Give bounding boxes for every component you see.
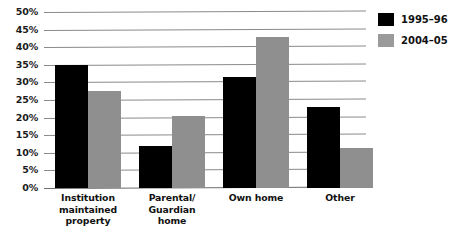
gridline [44,28,366,31]
bar [172,116,205,188]
gridline [44,46,366,49]
y-axis-tick-label: 25% [0,94,38,105]
y-axis-tick-label: 10% [0,147,38,158]
x-axis-category-line: Other [290,192,390,204]
y-axis-tick-label: 50% [0,6,38,17]
gridline [44,63,366,66]
legend-item: 1995–96 [378,12,458,26]
bar [256,37,289,188]
bar [340,148,373,188]
bar-chart: 50%45%40%35%30%25%20%15%10%5%0% Institut… [0,0,459,236]
y-axis-tick-label: 15% [0,129,38,140]
plot-area [44,12,366,188]
x-axis-category-line: Guardian [122,204,222,216]
gridline [44,10,366,13]
y-axis-tick-label: 0% [0,182,38,193]
y-axis-tick-label: 30% [0,76,38,87]
legend-label: 1995–96 [401,14,448,25]
bar [307,107,340,188]
legend-swatch [378,13,394,26]
legend-swatch [378,34,394,47]
legend-item: 2004–05 [378,33,458,47]
legend-label: 2004–05 [401,35,448,46]
bar [55,65,88,188]
bar [139,146,172,188]
y-axis-tick-label: 35% [0,59,38,70]
x-axis-category-label: Other [290,192,390,204]
y-axis-tick-label: 20% [0,112,38,123]
gridline [44,81,366,84]
x-axis-category-line: home [122,215,222,227]
y-axis-tick-label: 40% [0,41,38,52]
bar [88,91,121,188]
y-axis-tick-label: 45% [0,24,38,35]
bar [223,77,256,188]
y-axis-tick-label: 5% [0,164,38,175]
chart-legend: 1995–962004–05 [378,12,458,54]
